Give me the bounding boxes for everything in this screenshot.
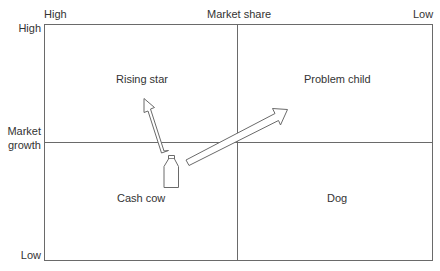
market-growth-axis-label-line2: growth [0,139,41,152]
quadrant-dog-label: Dog [327,192,347,205]
market-share-high-label: High [44,8,67,21]
milk-bottle-icon [164,156,179,188]
market-growth-high-label: High [4,22,41,35]
market-share-low-label: Low [413,8,433,21]
arrow-to-problem-child-icon [186,109,288,166]
quadrant-rising-star-label: Rising star [116,73,168,86]
bcg-matrix-graphic [0,0,440,271]
arrow-to-rising-star-icon [144,99,169,154]
market-growth-low-label: Low [4,249,41,262]
market-growth-axis-label-line1: Market [0,125,41,138]
quadrant-problem-child-label: Problem child [304,73,371,86]
quadrant-cash-cow-label: Cash cow [117,192,165,205]
market-share-axis-label: Market share [207,8,271,21]
